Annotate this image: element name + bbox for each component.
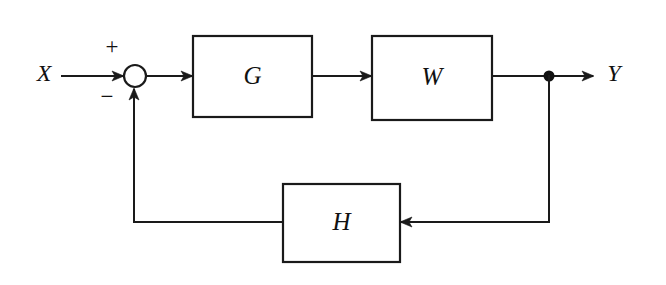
block-forward-gain-label: G bbox=[243, 62, 261, 89]
block-diagram-canvas: + − G W H X Y bbox=[0, 0, 666, 285]
block-feedback-gain-label: H bbox=[331, 208, 352, 235]
summing-junction bbox=[124, 65, 146, 87]
block-diagram-svg: + − G W H X Y bbox=[0, 0, 666, 285]
summing-junction-plus-sign: + bbox=[106, 34, 119, 59]
block-plant-label: W bbox=[422, 63, 445, 90]
output-signal-label: Y bbox=[607, 60, 623, 86]
summing-junction-minus-sign: − bbox=[101, 84, 114, 109]
input-signal-label: X bbox=[36, 60, 53, 86]
